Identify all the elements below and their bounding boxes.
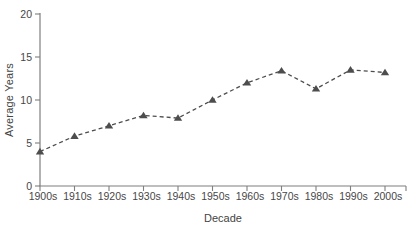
x-axis-title: Decade: [204, 212, 242, 224]
data-point-1990s: [346, 66, 354, 73]
y-tick-label: 5: [26, 137, 32, 149]
x-tick-label: 1950s: [201, 190, 230, 202]
data-point-1930s: [139, 112, 147, 119]
data-point-1950s: [208, 96, 216, 103]
y-tick-label: 15: [20, 51, 32, 63]
x-tick-label: 1990s: [339, 190, 368, 202]
chart-svg: 051015201900s1910s1920s1930s1940s1950s19…: [0, 0, 407, 233]
x-tick-label: 1960s: [236, 190, 265, 202]
data-point-1900s: [36, 148, 44, 155]
x-tick-label: 1980s: [305, 190, 334, 202]
data-point-2000s: [381, 69, 389, 76]
data-point-1970s: [277, 67, 285, 74]
data-line: [40, 70, 385, 152]
data-point-1910s: [70, 132, 78, 139]
data-point-1980s: [312, 85, 320, 92]
x-tick-label: 1930s: [132, 190, 161, 202]
x-tick-label: 2000s: [374, 190, 403, 202]
y-tick-label: 20: [20, 8, 32, 20]
data-point-1920s: [105, 122, 113, 129]
x-tick-label: 1940s: [167, 190, 196, 202]
y-tick-label: 10: [20, 94, 32, 106]
x-tick-label: 1910s: [63, 190, 92, 202]
x-tick-label: 1970s: [270, 190, 299, 202]
x-tick-label: 1900s: [29, 190, 58, 202]
y-axis-title: Average Years: [3, 63, 15, 137]
x-tick-label: 1920s: [98, 190, 127, 202]
line-chart: 051015201900s1910s1920s1930s1940s1950s19…: [0, 0, 407, 233]
